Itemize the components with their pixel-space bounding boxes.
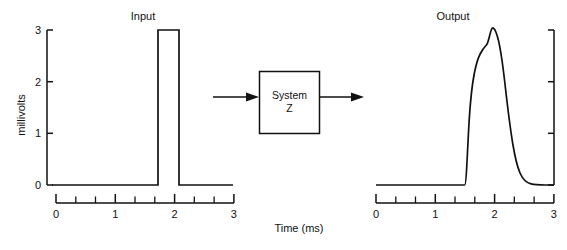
figure-canvas: Input millivolts 3 2 1 0: [0, 0, 567, 250]
input-x-ticklabel-1: 1: [112, 208, 118, 220]
output-y-axis: [548, 30, 554, 185]
input-waveform-trace: [52, 30, 233, 185]
system-block-group: System Z: [213, 72, 364, 134]
output-arrow-head: [351, 93, 364, 102]
input-panel-title: Input: [131, 10, 155, 22]
signal-system-figure: Input millivolts 3 2 1 0: [0, 0, 567, 250]
input-x-ticklabel-3: 3: [231, 208, 237, 220]
output-arrow: [320, 93, 364, 102]
input-y-axis-label: millivolts: [15, 94, 27, 136]
output-x-axis: 0 1 2 3: [373, 194, 557, 220]
input-y-ticklabel-3: 3: [35, 24, 41, 36]
input-x-axis: 0 1 2 3: [53, 194, 237, 220]
output-x-ticklabel-0: 0: [373, 208, 379, 220]
input-y-ticklabel-2: 2: [35, 76, 41, 88]
system-block-label-line2: Z: [286, 102, 293, 114]
input-x-ticklabel-2: 2: [172, 208, 178, 220]
input-y-ticklabel-1: 1: [35, 127, 41, 139]
system-block-label-line1: System: [272, 89, 307, 101]
input-panel: Input millivolts 3 2 1 0: [15, 10, 237, 220]
shared-x-axis-label: Time (ms): [274, 222, 323, 234]
input-arrow-head: [246, 93, 259, 102]
output-panel-title: Output: [436, 10, 469, 22]
output-waveform-trace: [376, 28, 554, 185]
input-x-ticklabel-0: 0: [53, 208, 59, 220]
output-x-ticklabel-2: 2: [492, 208, 498, 220]
input-y-axis: 3 2 1 0: [35, 24, 53, 191]
output-x-ticklabel-1: 1: [432, 208, 438, 220]
input-arrow: [213, 93, 259, 102]
output-x-ticklabel-3: 3: [551, 208, 557, 220]
output-panel: Output: [373, 10, 557, 220]
input-y-ticklabel-0: 0: [35, 179, 41, 191]
